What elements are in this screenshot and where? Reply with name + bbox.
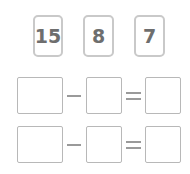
answer-box-difference[interactable] (145, 77, 181, 114)
answer-box-subtrahend[interactable] (86, 77, 122, 114)
number-card-value: 8 (92, 25, 105, 47)
number-card-15[interactable]: 15 (33, 15, 63, 57)
answer-box-minuend[interactable] (17, 77, 63, 114)
answer-box-minuend[interactable] (17, 126, 63, 163)
number-card-7[interactable]: 7 (134, 15, 165, 57)
number-card-value: 7 (143, 25, 156, 47)
answer-box-subtrahend[interactable] (86, 126, 122, 163)
number-card-value: 15 (35, 25, 61, 47)
answer-box-difference[interactable] (145, 126, 181, 163)
number-card-8[interactable]: 8 (83, 15, 114, 57)
minus-sign (67, 95, 81, 97)
minus-sign (67, 144, 81, 146)
